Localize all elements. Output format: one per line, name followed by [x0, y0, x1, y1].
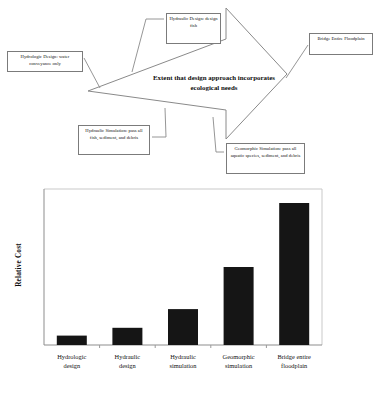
callout-bridge-entire-floodplain: Bridge Entire Floodplain [309, 33, 373, 55]
callout-hydrologic-design: Hydrologic Design: water conveyance only [7, 51, 83, 72]
x-tick-line1: Bridge entire [265, 352, 323, 361]
leader-line-hydraulic-design-2 [132, 19, 146, 72]
bar-chart: Relative Cost Hydrologic design Hydrauli… [0, 185, 387, 394]
leader-line-geomorphic-sim-2 [213, 117, 216, 152]
leader-line-hydrologic-design [84, 58, 100, 88]
x-tick-line2: design [43, 361, 101, 370]
x-tick-label-hydrologic-design: Hydrologic design [43, 352, 101, 371]
x-tick-label-hydraulic-design: Hydraulic design [98, 352, 156, 371]
x-tick-label-geomorphic-simulation: Geomorphic simulation [210, 352, 268, 371]
callout-geomorphic-simulation: Geomorphic Simulation: pass all aquatic … [226, 143, 305, 174]
bar-hydrologic-design [57, 336, 87, 345]
y-axis-label: Relative Cost [15, 220, 23, 310]
bar-geomorphic-simulation [224, 267, 254, 345]
x-tick-label-bridge-entire-floodplain: Bridge entire floodplain [265, 352, 323, 371]
bar-series [57, 203, 309, 345]
bar-hydraulic-design [112, 328, 142, 345]
leader-line-hydraulic-sim-2 [165, 108, 166, 137]
figure: Hydrologic Design: water conveyance only… [0, 0, 387, 394]
bar-bridge-entire-floodplain [279, 203, 309, 345]
x-tick-label-hydraulic-simulation: Hydraulic simulation [154, 352, 212, 371]
x-tick-line2: simulation [154, 361, 212, 370]
callout-hydraulic-simulation: Hydraulic Simulation: pass all fish, sed… [78, 125, 150, 155]
x-tick-line2: floodplain [265, 361, 323, 370]
x-tick-line1: Hydrologic [43, 352, 101, 361]
x-tick-line2: simulation [210, 361, 268, 370]
x-tick-line1: Geomorphic [210, 352, 268, 361]
x-tick-line1: Hydraulic [154, 352, 212, 361]
bar-hydraulic-simulation [168, 309, 198, 345]
callout-hydraulic-design: Hydraulic Design: design fish [166, 13, 221, 44]
x-tick-line1: Hydraulic [98, 352, 156, 361]
x-tick-line2: design [98, 361, 156, 370]
leader-line-bridge-floodplain [286, 45, 308, 78]
arrow-label: Extent that design approach incorporates… [144, 73, 284, 93]
